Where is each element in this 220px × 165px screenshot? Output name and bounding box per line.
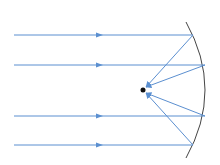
ray-3-reflected	[146, 93, 205, 116]
ray-1-arrow-icon	[96, 33, 103, 38]
ray-3-arrow-icon	[96, 114, 103, 119]
ray-2-arrow-icon	[96, 63, 103, 68]
concave-mirror-diagram	[0, 0, 220, 165]
ray-1-reflected	[146, 35, 193, 87]
ray-4-reflected	[146, 93, 193, 145]
concave-mirror	[186, 22, 205, 158]
ray-4-arrow-icon	[96, 143, 103, 148]
focal-point	[141, 88, 146, 93]
ray-2-reflected	[146, 65, 205, 87]
